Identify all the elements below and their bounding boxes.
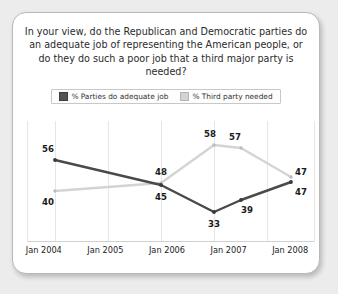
- legend-swatch-icon: [59, 92, 68, 101]
- legend-swatch-icon: [180, 92, 189, 101]
- series-line-adequate-job: [55, 160, 291, 212]
- legend-item-third-party: % Third party needed: [180, 92, 272, 101]
- data-label: 33: [208, 219, 220, 229]
- data-label: 40: [42, 197, 54, 207]
- x-tick-label: Jan 2004: [13, 245, 75, 267]
- legend: % Parties do adequate job % Third party …: [51, 89, 280, 104]
- x-tick-label: Jan 2006: [136, 245, 198, 267]
- chart-card: In your view, do the Republican and Demo…: [12, 12, 320, 274]
- data-label: 45: [155, 192, 167, 202]
- data-label: 47: [295, 167, 307, 177]
- x-axis-labels: Jan 2004 Jan 2005 Jan 2006 Jan 2007 Jan …: [13, 245, 320, 267]
- legend-label-adequate-job: % Parties do adequate job: [71, 92, 168, 101]
- series-markers-adequate-job: [53, 158, 293, 214]
- data-label: 57: [229, 132, 241, 142]
- x-tick-label: Jan 2007: [198, 245, 260, 267]
- legend-container: % Parties do adequate job % Third party …: [13, 89, 319, 104]
- page-title: In your view, do the Republican and Demo…: [23, 25, 309, 79]
- x-tick-label: Jan 2008: [259, 245, 320, 267]
- legend-item-adequate-job: % Parties do adequate job: [59, 92, 168, 101]
- data-label: 39: [241, 205, 253, 215]
- x-tick-label: Jan 2005: [75, 245, 137, 267]
- gridlines: [28, 121, 315, 241]
- data-label: 47: [295, 187, 307, 197]
- data-label: 56: [42, 144, 54, 154]
- data-label: 48: [155, 167, 167, 177]
- data-label: 58: [204, 129, 216, 139]
- legend-label-third-party: % Third party needed: [192, 92, 272, 101]
